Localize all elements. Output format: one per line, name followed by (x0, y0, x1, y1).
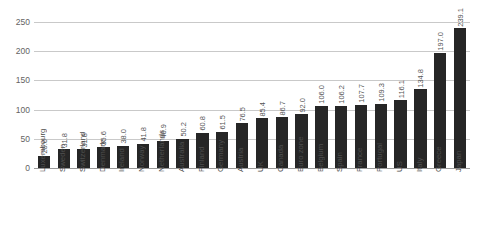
bar-value-label: 109.3 (376, 83, 385, 102)
bar-group: 116.1 (394, 22, 406, 168)
bar-value-label: 107.7 (356, 84, 365, 103)
x-axis-tick-label: UK (256, 161, 265, 172)
x-axis-tick-label: Greece (434, 146, 443, 172)
bar-value-label: 239.1 (456, 8, 465, 27)
x-axis-tick-label: Austria (236, 148, 245, 172)
x-axis-tick-label: Belgium (316, 144, 325, 172)
bar-value-label: 38.0 (119, 129, 128, 144)
bar-group: 106.2 (335, 22, 347, 168)
x-axis-tick-label: Finland (197, 146, 206, 172)
bar (414, 89, 426, 168)
bar-value-label: 116.1 (396, 80, 405, 98)
x-axis-tick-label: Ireland (117, 148, 126, 172)
x-axis-tick-label: Norway (137, 146, 146, 172)
bar-value-label: 92.0 (297, 98, 306, 113)
x-axis-tick-label: US (395, 161, 404, 172)
bar-value-label: 60.8 (198, 116, 207, 131)
bar-group: 38.0 (117, 22, 129, 168)
bar-value-label: 86.7 (277, 101, 286, 116)
bar-value-label: 197.0 (436, 32, 445, 51)
x-axis-tick-label: Canada (276, 145, 285, 172)
bar-value-label: 85.4 (257, 102, 266, 117)
x-axis-tick-label: Netherlands (157, 130, 166, 172)
bar-group: 107.7 (355, 22, 367, 168)
x-axis-tick-label: Australia (177, 142, 186, 172)
bar-group: 134.8 (414, 22, 426, 168)
x-axis-tick-label: Sweden (58, 144, 67, 172)
x-axis-tick-label: Spain (335, 152, 344, 172)
y-axis-tick-label: 0 (25, 163, 30, 173)
x-axis-tick-label: Japan (454, 151, 463, 172)
x-axis-tick-label: Denmark (98, 140, 107, 172)
bar-value-label: 106.2 (337, 85, 346, 104)
bar-group: 76.5 (236, 22, 248, 168)
x-axis-tick-label: Portugal (375, 143, 384, 172)
bar (394, 100, 406, 168)
x-axis-tick-label: Switzerland (78, 132, 87, 172)
bar-group: 85.4 (256, 22, 268, 168)
bar-value-label: 61.5 (218, 115, 227, 130)
x-axis-tick-label: France (355, 148, 364, 172)
y-axis-tick-label: 100 (16, 105, 30, 115)
bar (454, 28, 466, 168)
bar-value-label: 134.8 (416, 69, 425, 88)
y-axis-tick-label: 200 (16, 46, 30, 56)
x-axis-tick-label: Germany (216, 140, 225, 172)
y-axis: 050100150200250 (0, 0, 30, 249)
bar-chart: 050100150200250 20.631.831.835.638.041.8… (0, 0, 484, 249)
y-axis-tick-label: 250 (16, 17, 30, 27)
bar-value-label: 41.8 (138, 127, 147, 142)
y-axis-tick-label: 150 (16, 75, 30, 85)
x-axis-tick-label: Italy (415, 158, 424, 172)
bar-value-label: 106.0 (317, 85, 326, 104)
bar-group: 239.1 (454, 22, 466, 168)
bar-value-label: 50.2 (178, 122, 187, 137)
x-axis: LuxembourgSwedenSwitzerlandDenmarkIrelan… (34, 172, 470, 249)
x-axis-tick-label: Luxembourg (38, 129, 47, 172)
bar-value-label: 76.5 (238, 107, 247, 122)
x-axis-tick-label: Euro zone (296, 136, 305, 172)
y-axis-tick-label: 50 (21, 134, 30, 144)
